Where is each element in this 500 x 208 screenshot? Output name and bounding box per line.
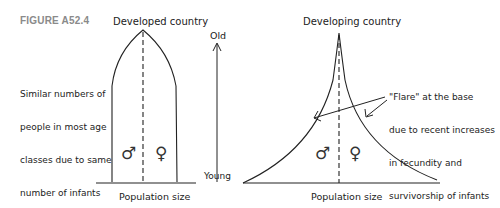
note-line: classes due to same	[20, 155, 112, 166]
note-line: due to recent increases	[389, 125, 495, 136]
developing-note: "Flare" at the base due to recent increa…	[389, 70, 495, 208]
male-symbol-icon: ♂	[315, 143, 330, 163]
note-line: Similar numbers of	[20, 89, 112, 100]
female-symbol-icon: ♀	[155, 143, 167, 163]
note-line: in fecundity and	[389, 158, 495, 169]
age-axis-old-label: Old	[210, 30, 226, 42]
note-line: survivorship of infants	[389, 191, 495, 202]
female-symbol-icon: ♀	[349, 143, 361, 163]
note-line: people in most age	[20, 122, 112, 133]
age-axis-arrow	[213, 43, 221, 182]
note-line: number of infants	[20, 188, 112, 199]
male-symbol-icon: ♂	[121, 143, 136, 163]
developed-note: Similar numbers of people in most age cl…	[20, 67, 112, 208]
developing-x-label: Population size	[311, 191, 382, 203]
developed-title: Developed country	[113, 16, 208, 28]
developed-x-label: Population size	[119, 191, 190, 203]
note-line: "Flare" at the base	[389, 92, 495, 103]
age-axis-young-label: Young	[204, 170, 231, 182]
developing-title: Developing country	[303, 16, 401, 28]
